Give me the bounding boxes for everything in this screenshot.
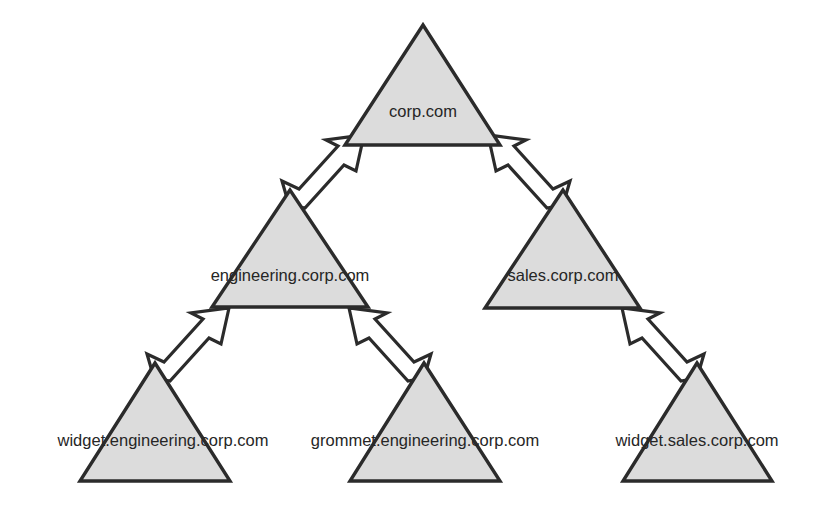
domain-label-grommet-engineering: grommet.engineering.corp.com — [311, 431, 539, 449]
domain-label-sales: sales.corp.com — [508, 266, 619, 284]
domain-triangle-widget-engineering — [80, 363, 230, 481]
domain-node-grommet-engineering[interactable]: grommet.engineering.corp.com — [311, 363, 539, 481]
domain-tree-canvas: corp.com engineering.corp.com sales.corp… — [0, 0, 826, 516]
domain-triangle-corp — [345, 25, 500, 145]
domain-label-widget-sales: widget.sales.corp.com — [614, 431, 778, 449]
domain-triangle-grommet-engineering — [350, 363, 500, 481]
domain-node-corp[interactable]: corp.com — [345, 25, 500, 145]
domain-node-engineering[interactable]: engineering.corp.com — [211, 190, 370, 307]
domain-tree-diagram: corp.com engineering.corp.com sales.corp… — [0, 0, 826, 516]
domain-node-sales[interactable]: sales.corp.com — [485, 190, 640, 308]
domain-triangle-sales — [485, 190, 640, 308]
domain-triangle-widget-sales — [623, 363, 772, 481]
domain-node-widget-sales[interactable]: widget.sales.corp.com — [614, 363, 778, 481]
domain-label-corp: corp.com — [389, 102, 457, 120]
domain-label-engineering: engineering.corp.com — [211, 266, 370, 284]
domain-label-widget-engineering: widget.engineering.corp.com — [57, 431, 269, 449]
domain-triangle-engineering — [212, 190, 368, 307]
domain-node-widget-engineering[interactable]: widget.engineering.corp.com — [57, 363, 269, 481]
